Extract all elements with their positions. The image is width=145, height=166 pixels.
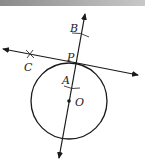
tangent-line-right xyxy=(77,63,138,75)
point-o xyxy=(67,99,71,103)
line-op-lower xyxy=(59,86,72,158)
tangent-construction-diagram: B P C A O xyxy=(0,0,145,166)
label-o: O xyxy=(75,96,84,109)
label-c: C xyxy=(24,61,33,74)
tangent-line xyxy=(3,49,77,63)
label-b: B xyxy=(69,22,78,35)
label-a: A xyxy=(61,74,70,87)
label-p: P xyxy=(66,51,75,64)
